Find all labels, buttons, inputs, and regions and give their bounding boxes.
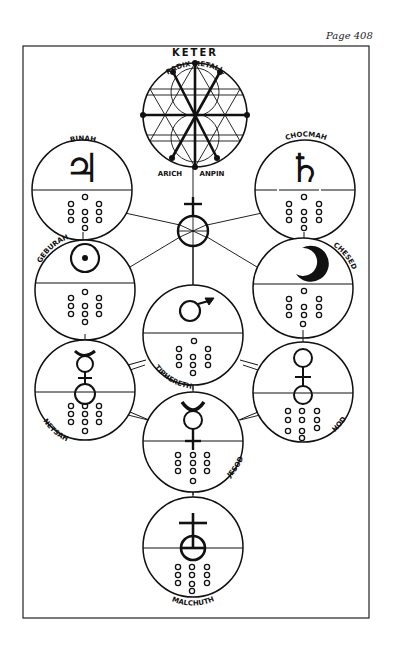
- malchuth-sephira: MALCHUTH: [143, 497, 243, 608]
- netsah-sephira: NETSAH: [35, 340, 135, 443]
- keter-label: KETER: [172, 47, 218, 58]
- hod-sephira: HOD: [253, 342, 353, 442]
- binah-sephira: ♃ BINAH: [32, 135, 132, 240]
- chocmah-sephira: ♄ CHOCMAH: [255, 130, 355, 240]
- jupiter-icon: ♃: [64, 145, 100, 191]
- keter-lower-left-label: ARICH: [158, 170, 183, 178]
- chesed-sephira: CHESED: [253, 238, 358, 338]
- central-antimony-node: [178, 197, 208, 246]
- geburah-sephira: GEBURAH: [35, 233, 135, 340]
- keter-lower-right-label: ANPIN: [200, 170, 225, 178]
- saturn-icon: ♄: [287, 145, 323, 191]
- jesod-sephira: JESOD: [143, 392, 245, 492]
- tiphereth-sephira: TIPHERETH: [143, 285, 243, 391]
- keter-sephira: KETER RADIX METALL. ARICH ANPIN: [140, 47, 250, 178]
- sephiroth-tree-diagram: KETER RADIX METALL. ARICH ANPIN ♃ B: [0, 0, 393, 647]
